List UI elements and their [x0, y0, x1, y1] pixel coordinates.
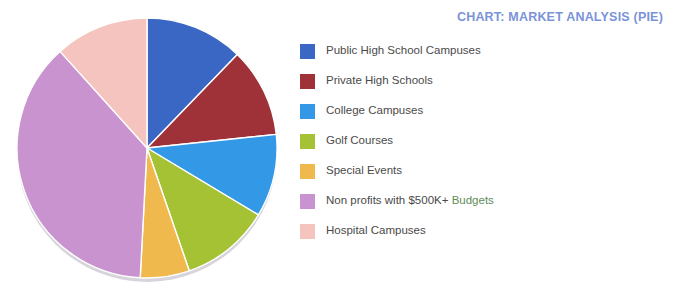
legend-color-swatch	[300, 134, 315, 149]
pie-svg	[13, 8, 291, 280]
legend-item-label: Private High Schools	[326, 75, 433, 87]
legend-item-label: College Campuses	[326, 105, 423, 117]
legend-label-accent: Budgets	[452, 194, 494, 206]
legend-item[interactable]: Golf Courses	[300, 126, 660, 156]
chart-legend: Public High School CampusesPrivate High …	[300, 36, 660, 246]
legend-color-swatch	[300, 104, 315, 119]
chart-title: CHART: MARKET ANALYSIS (PIE)	[457, 10, 663, 24]
legend-color-swatch	[300, 74, 315, 89]
legend-item[interactable]: College Campuses	[300, 96, 660, 126]
legend-item[interactable]: Non profits with $500K+ Budgets	[300, 186, 660, 216]
legend-item-label: Special Events	[326, 165, 402, 177]
legend-color-swatch	[300, 164, 315, 179]
legend-item[interactable]: Public High School Campuses	[300, 36, 660, 66]
legend-item-label: Non profits with $500K+ Budgets	[326, 195, 494, 207]
legend-color-swatch	[300, 44, 315, 59]
legend-item-label: Public High School Campuses	[326, 45, 481, 57]
legend-item[interactable]: Special Events	[300, 156, 660, 186]
legend-item-label: Hospital Campuses	[326, 225, 426, 237]
pie-chart-figure: CHART: MARKET ANALYSIS (PIE) Public High…	[0, 0, 673, 284]
pie-slices-group	[17, 18, 277, 278]
pie-plot-area	[13, 8, 291, 280]
legend-item-label: Golf Courses	[326, 135, 393, 147]
legend-item[interactable]: Hospital Campuses	[300, 216, 660, 246]
legend-item[interactable]: Private High Schools	[300, 66, 660, 96]
legend-color-swatch	[300, 224, 315, 239]
legend-color-swatch	[300, 194, 315, 209]
